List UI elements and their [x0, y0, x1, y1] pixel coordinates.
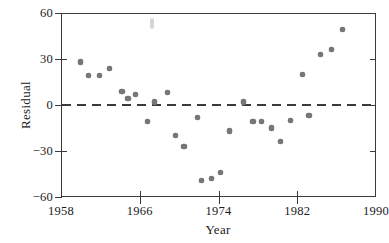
x-tick-label: 1966 — [127, 205, 153, 218]
y-tick-mark-inner — [61, 151, 67, 152]
data-point — [119, 89, 124, 94]
y-axis-title: Residual — [18, 81, 34, 129]
data-point — [78, 59, 83, 64]
y-tick-label: 0 — [47, 99, 53, 112]
data-point — [306, 113, 311, 118]
data-point — [181, 144, 186, 149]
y-tick-label: 60 — [40, 7, 53, 20]
y-tick-mark-inner — [61, 105, 67, 106]
scan-artifact — [150, 18, 154, 29]
y-tick-mark-right — [370, 105, 376, 106]
zero-reference-line — [62, 104, 375, 106]
y-tick-label: −30 — [33, 145, 53, 158]
x-tick-mark-inner — [297, 191, 298, 197]
x-axis-title: Year — [205, 222, 230, 238]
x-tick-mark — [219, 197, 220, 204]
data-point — [288, 118, 293, 123]
x-tick-mark — [297, 197, 298, 204]
data-point — [300, 72, 305, 77]
x-tick-mark-inner — [140, 191, 141, 197]
data-point — [269, 125, 274, 130]
y-tick-mark-inner — [61, 59, 67, 60]
y-tick-mark — [55, 13, 62, 14]
data-point — [173, 133, 178, 138]
y-tick-mark — [55, 197, 62, 198]
x-tick-mark — [140, 197, 141, 204]
y-tick-label: 30 — [40, 53, 53, 66]
x-tick-label: 1982 — [284, 205, 310, 218]
x-tick-label: 1974 — [206, 205, 232, 218]
x-tick-mark-inner — [219, 191, 220, 197]
data-point — [241, 99, 246, 104]
data-point — [227, 128, 232, 133]
y-tick-label: −60 — [33, 191, 53, 204]
data-point — [152, 99, 157, 104]
y-tick-mark-right — [370, 59, 376, 60]
x-tick-label: 1990 — [363, 205, 389, 218]
y-tick-mark-right — [370, 151, 376, 152]
x-tick-label: 1958 — [48, 205, 74, 218]
data-point — [107, 66, 112, 71]
